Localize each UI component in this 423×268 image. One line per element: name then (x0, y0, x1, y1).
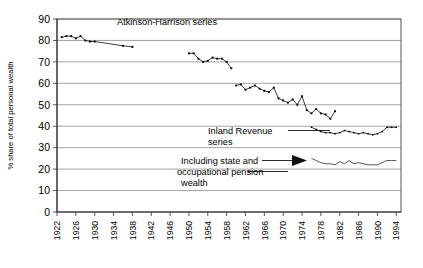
y-tick-label: 80 (38, 34, 50, 46)
series-1 (311, 127, 397, 136)
y-tick-label: 20 (38, 163, 50, 175)
y-tick-label: 30 (38, 141, 50, 153)
data-point (226, 61, 228, 63)
x-tick-label: 1970 (278, 221, 288, 240)
data-point (339, 132, 341, 134)
x-tick-label: 1950 (184, 221, 194, 240)
annotations: Atkinson-Harrison seriesInland Revenuese… (117, 17, 330, 188)
chart-container: 0102030405060708090% share of total pers… (0, 0, 423, 268)
data-point (358, 133, 360, 135)
x-axis: 1922192619301934193819421946195019541958… (52, 212, 401, 240)
data-point (230, 67, 232, 69)
series-2 (311, 158, 396, 164)
series-line-0-0 (62, 36, 133, 47)
data-point (296, 104, 298, 106)
x-tick-label: 1926 (71, 221, 81, 240)
y-tick-label: 90 (38, 13, 50, 25)
arrow-icon (292, 155, 307, 166)
x-tick-label: 1990 (373, 221, 383, 240)
data-point (334, 133, 336, 135)
data-point (61, 36, 63, 38)
data-point (344, 130, 346, 132)
data-point (188, 52, 190, 54)
data-point (193, 52, 195, 54)
data-point (273, 87, 275, 89)
series-line-1-0 (311, 127, 396, 135)
data-point (315, 129, 317, 131)
data-point (216, 58, 218, 60)
x-tick-label: 1938 (128, 221, 138, 240)
data-point (94, 41, 96, 43)
data-point (287, 102, 289, 104)
y-tick-label: 40 (38, 120, 50, 132)
data-point (249, 87, 251, 89)
x-tick-label: 1934 (109, 221, 119, 240)
data-point (306, 109, 308, 111)
data-point (259, 88, 261, 90)
data-point (131, 46, 133, 48)
x-tick-label: 1922 (52, 221, 62, 240)
data-point (372, 134, 374, 136)
series-line-2-0 (311, 158, 396, 164)
data-point (212, 57, 214, 59)
x-tick-label: 1978 (316, 221, 326, 240)
data-point (391, 127, 393, 129)
data-point (268, 91, 270, 93)
data-point (325, 132, 327, 134)
annotation-pension-line1: Including state and (181, 156, 258, 166)
data-point (245, 89, 247, 91)
wealth-share-line-chart: 0102030405060708090% share of total pers… (0, 0, 423, 268)
series-line-0-1 (189, 53, 231, 68)
data-point (330, 132, 332, 134)
data-point (70, 35, 72, 37)
series-0 (61, 35, 336, 119)
x-tick-label: 1942 (146, 221, 156, 240)
x-tick-label: 1982 (335, 221, 345, 240)
data-point (334, 110, 336, 112)
data-point (263, 90, 265, 92)
data-point (320, 112, 322, 114)
data-point (89, 41, 91, 43)
x-tick-label: 1966 (260, 221, 270, 240)
data-point (301, 95, 303, 97)
data-point (282, 100, 284, 102)
data-point (221, 58, 223, 60)
x-tick-label: 1946 (165, 221, 175, 240)
x-tick-label: 1962 (241, 221, 251, 240)
y-axis-title: % share of total personal wealth (6, 61, 15, 169)
annotation-pension-line2: occupational pension (177, 167, 263, 177)
data-point (396, 127, 398, 129)
data-point (315, 108, 317, 110)
data-point (320, 131, 322, 133)
data-point (75, 37, 77, 39)
data-point (363, 132, 365, 134)
data-point (240, 83, 242, 85)
annotation-atkinson-harrison: Atkinson-Harrison series (117, 17, 217, 27)
data-point (353, 132, 355, 134)
y-tick-label: 60 (38, 77, 50, 89)
data-point (311, 112, 313, 114)
data-point (325, 113, 327, 115)
data-point (65, 35, 67, 37)
data-point (386, 127, 388, 129)
y-axis: 0102030405060708090 (38, 13, 57, 218)
x-tick-label: 1954 (203, 221, 213, 240)
data-point (197, 58, 199, 60)
data-point (311, 127, 313, 129)
data-point (207, 60, 209, 62)
data-point (377, 133, 379, 135)
data-point (292, 98, 294, 100)
annotation-pension-line3: wealth (180, 178, 208, 188)
x-tick-label: 1958 (222, 221, 232, 240)
plot-frame (57, 19, 401, 212)
data-point (329, 118, 331, 120)
data-point (80, 35, 82, 37)
x-tick-label: 1986 (354, 221, 364, 240)
x-tick-label: 1974 (297, 221, 307, 240)
annotation-inland-revenue-line1: Inland Revenue (208, 126, 272, 136)
data-point (278, 97, 280, 99)
data-point (122, 45, 124, 47)
y-tick-label: 0 (44, 206, 50, 218)
data-point (235, 85, 237, 87)
y-tick-label: 70 (38, 56, 50, 68)
